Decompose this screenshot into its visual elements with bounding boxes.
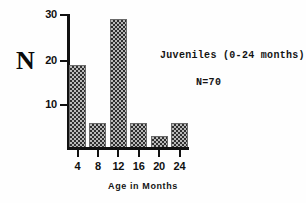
x-axis-title: Age in Months <box>88 181 198 191</box>
x-axis-tick-label-8: 8 <box>88 160 108 172</box>
y-axis-tick-10 <box>60 104 67 106</box>
x-axis-tick-8 <box>97 150 99 157</box>
histogram-figure: 30 20 10 N 4812162024 Age in Months Juve… <box>0 0 306 203</box>
x-axis-tick-4 <box>77 150 79 157</box>
x-axis-tick-label-4: 4 <box>68 160 88 172</box>
x-axis-tick-label-20: 20 <box>149 160 169 172</box>
bar-16-months <box>130 123 147 148</box>
x-axis-tick-label-16: 16 <box>129 160 149 172</box>
x-axis-tick-label-24: 24 <box>170 160 190 172</box>
x-axis-tick-label-12: 12 <box>108 160 128 172</box>
x-axis-tick-16 <box>138 150 140 157</box>
legend-group-label: Juveniles (0-24 months) <box>160 50 305 61</box>
bar-12-months <box>110 19 127 148</box>
y-axis-tick-label-20: 20 <box>33 55 57 66</box>
x-axis-tick-12 <box>117 150 119 157</box>
x-axis-tick-24 <box>179 150 181 157</box>
y-axis-tick-20 <box>60 60 67 62</box>
y-axis-tick-30 <box>60 14 67 16</box>
x-axis-line <box>67 147 189 150</box>
legend-sample-size-label: N=70 <box>196 77 221 88</box>
bar-series <box>67 0 192 148</box>
bar-4-months <box>69 65 86 148</box>
y-axis-tick-label-30: 30 <box>33 9 57 20</box>
y-axis-tick-label-10: 10 <box>33 99 57 110</box>
y-axis-title: N <box>16 48 35 74</box>
bar-8-months <box>89 123 106 148</box>
bar-24-months <box>171 123 188 148</box>
x-axis-tick-20 <box>158 150 160 157</box>
